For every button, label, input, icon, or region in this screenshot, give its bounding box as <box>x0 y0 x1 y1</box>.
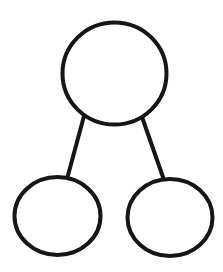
node-right-child <box>128 179 213 256</box>
edge-root-to-left-child <box>67 116 84 179</box>
node-left-child <box>15 177 101 255</box>
diagram-svg <box>0 0 223 272</box>
tree-diagram <box>0 0 223 272</box>
edge-root-to-right-child <box>142 117 164 180</box>
node-root <box>63 23 167 125</box>
nodes-group <box>15 23 213 257</box>
